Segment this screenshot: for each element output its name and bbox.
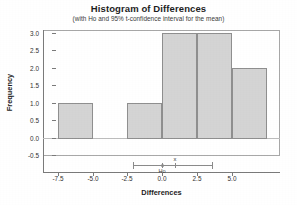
sample-mean-label: x <box>163 156 187 162</box>
y-axis-title: Frequency <box>5 63 14 123</box>
histogram-bar <box>58 103 93 139</box>
x-tick-label: 0.0 <box>147 175 177 182</box>
y-tick-label: 1.0 <box>17 100 39 107</box>
y-tick-mark <box>52 68 56 69</box>
histogram-bar <box>127 103 162 139</box>
y-tick-label: 0.5 <box>17 117 39 124</box>
chart-subtitle: (with Ho and 95% t-confidence interval f… <box>0 15 297 22</box>
y-tick-label: -0.5 <box>17 152 39 159</box>
x-axis-title: Differences <box>43 188 280 197</box>
x-tick-label: 2.5 <box>182 175 212 182</box>
confidence-interval-line <box>133 165 212 166</box>
x-tick-label: -7.5 <box>43 175 73 182</box>
y-tick-label: 3.0 <box>17 30 39 37</box>
x-tick-label: 5.0 <box>217 175 247 182</box>
y-axis-line <box>43 30 44 173</box>
y-tick-mark <box>52 103 56 104</box>
y-tick-label: 1.5 <box>17 82 39 89</box>
x-tick-label: -2.5 <box>112 175 142 182</box>
x-tick-label: -5.0 <box>78 175 108 182</box>
y-tick-mark <box>52 50 56 51</box>
y-tick-mark <box>52 120 56 121</box>
confidence-interval-upper-cap <box>212 162 213 169</box>
y-tick-mark <box>52 33 56 34</box>
histogram-bar <box>162 33 197 139</box>
y-tick-label: 2.0 <box>17 65 39 72</box>
y-tick-mark <box>52 155 56 156</box>
histogram-bar <box>232 68 267 139</box>
chart-title: Histogram of Differences <box>0 3 297 14</box>
y-tick-label: 0.0 <box>17 135 39 142</box>
sample-mean-mark <box>175 163 176 168</box>
histogram-bar <box>197 33 232 139</box>
confidence-interval-lower-cap <box>133 162 134 169</box>
y-tick-label: 2.5 <box>17 47 39 54</box>
y-tick-mark <box>52 138 56 139</box>
y-tick-mark <box>52 85 56 86</box>
histogram-chart: Histogram of Differences (with Ho and 95… <box>0 0 297 205</box>
